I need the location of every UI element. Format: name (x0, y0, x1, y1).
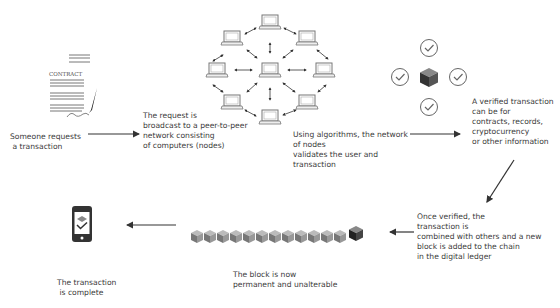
svg-text:CONTRACT: CONTRACT (49, 71, 83, 77)
verified-block-icon (392, 40, 467, 116)
contract-document-icon: CONTRACT (49, 55, 97, 117)
step-broadcast-caption: The request is broadcast to a peer-to-pe… (143, 111, 248, 151)
step-complete-caption: The transaction is complete (57, 278, 116, 298)
step-validate-caption: Using algorithms, the network of nodes v… (293, 130, 408, 170)
step-permanent-caption: The block is now permanent and unalterab… (233, 270, 337, 290)
block-chain-icon (191, 226, 363, 243)
peer-network-icon (206, 15, 335, 124)
step-request-caption: Someone requests a transaction (10, 132, 81, 152)
step-combine-caption: Once verified, the transaction is combin… (417, 212, 541, 262)
smartphone-check-icon (72, 206, 92, 242)
flow-arrow (487, 160, 514, 202)
step-types-caption: A verified transaction can be for contra… (472, 97, 554, 147)
